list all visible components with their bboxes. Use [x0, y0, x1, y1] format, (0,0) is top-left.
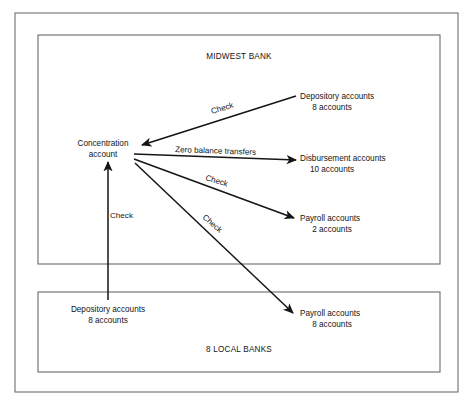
- edge-layer: [108, 96, 296, 313]
- section-box-local-banks: [38, 292, 440, 372]
- edge-depository-to-concentration: [142, 96, 296, 145]
- edge-label-layer: CheckZero balance transfersCheckCheckChe…: [110, 100, 256, 235]
- diagram-canvas: MIDWEST BANK 8 LOCAL BANKS CheckZero bal…: [0, 0, 472, 405]
- node-depository-accounts-midwest-line-1: 8 accounts: [312, 103, 352, 112]
- node-payroll-accounts-local: Payroll accounts8 accounts: [300, 309, 360, 329]
- edge-concentration-to-payroll-local-label: Check: [201, 213, 225, 235]
- node-depository-accounts-midwest-line-0: Depository accounts: [300, 92, 374, 101]
- node-disbursement-accounts-line-1: 10 accounts: [310, 165, 354, 174]
- node-depository-accounts-midwest: Depository accounts8 accounts: [300, 92, 374, 112]
- node-payroll-accounts-midwest-line-1: 2 accounts: [312, 225, 352, 234]
- node-payroll-accounts-midwest-line-0: Payroll accounts: [300, 214, 360, 223]
- node-payroll-accounts-midwest: Payroll accounts2 accounts: [300, 214, 360, 234]
- section-title-local-banks: 8 LOCAL BANKS: [206, 345, 272, 354]
- section-title-midwest-bank: MIDWEST BANK: [206, 52, 272, 61]
- node-depository-accounts-local-line-0: Depository accounts: [71, 305, 145, 314]
- edge-concentration-to-payroll-local: [135, 163, 293, 313]
- node-concentration-account-line-0: Concentration: [78, 139, 129, 148]
- diagram-page: MIDWEST BANK 8 LOCAL BANKS CheckZero bal…: [0, 0, 472, 405]
- node-depository-accounts-local-line-1: 8 accounts: [88, 316, 128, 325]
- outer-frame: [15, 13, 458, 392]
- node-payroll-accounts-local-line-0: Payroll accounts: [300, 309, 360, 318]
- node-disbursement-accounts: Disbursement accounts10 accounts: [300, 154, 386, 174]
- node-payroll-accounts-local-line-1: 8 accounts: [312, 320, 352, 329]
- edge-concentration-to-disbursement-label: Zero balance transfers: [175, 145, 256, 157]
- edge-depository-to-concentration-label: Check: [210, 100, 235, 116]
- edge-depository-local-to-concentration-label: Check: [110, 211, 134, 220]
- node-concentration-account-line-1: account: [89, 150, 118, 159]
- node-depository-accounts-local: Depository accounts8 accounts: [71, 305, 145, 325]
- edge-concentration-to-payroll-midwest: [134, 159, 294, 218]
- node-concentration-account: Concentrationaccount: [78, 139, 129, 159]
- node-disbursement-accounts-line-0: Disbursement accounts: [300, 154, 386, 163]
